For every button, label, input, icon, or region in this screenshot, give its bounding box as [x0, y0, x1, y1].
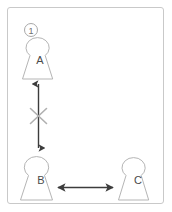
node-c-label: C — [128, 174, 148, 186]
node-b-label: B — [31, 174, 51, 186]
panel-index-badge: 1 — [24, 23, 38, 37]
node-a-label: A — [30, 54, 50, 66]
figure-panel: 1 A B C — [0, 0, 172, 212]
